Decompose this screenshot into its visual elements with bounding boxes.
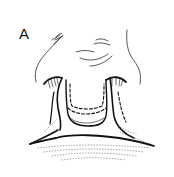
nose-illustration [0, 0, 174, 177]
columella [66, 80, 107, 126]
right-ala [106, 77, 134, 138]
nose-tip-outline [35, 30, 140, 84]
upper-lip [30, 130, 154, 146]
incision-lines [68, 84, 106, 114]
left-ala [44, 77, 62, 130]
